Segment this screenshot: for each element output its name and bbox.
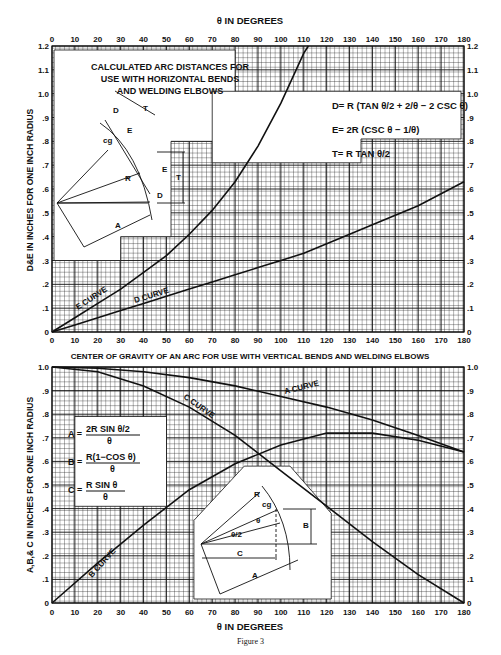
svg-text:R: R <box>125 174 131 183</box>
svg-text:θ/2: θ/2 <box>231 530 243 539</box>
svg-text:2R SIN θ/2: 2R SIN θ/2 <box>86 424 130 434</box>
svg-text:B =: B = <box>68 457 82 467</box>
svg-text:.7: .7 <box>467 161 474 170</box>
svg-text:10: 10 <box>70 35 79 44</box>
svg-text:150: 150 <box>389 35 403 44</box>
svg-text:130: 130 <box>343 35 357 44</box>
svg-text:.2: .2 <box>467 280 474 289</box>
svg-text:θ: θ <box>103 492 108 502</box>
svg-text:120: 120 <box>320 336 334 345</box>
svg-text:.6: .6 <box>42 457 49 466</box>
svg-text:160: 160 <box>412 608 426 617</box>
svg-text:180: 180 <box>457 336 471 345</box>
svg-text:140: 140 <box>366 35 380 44</box>
svg-text:100: 100 <box>274 608 288 617</box>
svg-text:20: 20 <box>93 608 102 617</box>
svg-text:90: 90 <box>254 35 263 44</box>
svg-text:.8: .8 <box>467 410 474 419</box>
svg-text:.9: .9 <box>467 114 474 123</box>
svg-text:110: 110 <box>297 336 310 345</box>
svg-text:170: 170 <box>434 35 448 44</box>
svg-text:50: 50 <box>162 608 171 617</box>
svg-text:10: 10 <box>70 336 79 345</box>
top-plot: 0102030405060708090100110120130140150160… <box>25 35 479 345</box>
svg-text:C: C <box>237 549 243 558</box>
bottom-plot: CENTER OF GRAVITY OF AN ARC FOR USE WITH… <box>25 352 479 617</box>
svg-text:.5: .5 <box>467 481 474 490</box>
svg-text:.3: .3 <box>467 257 474 266</box>
svg-text:θ: θ <box>107 436 112 446</box>
svg-text:50: 50 <box>162 35 171 44</box>
svg-text:30: 30 <box>116 336 125 345</box>
svg-text:0: 0 <box>45 328 50 337</box>
svg-text:.8: .8 <box>42 410 49 419</box>
svg-text:40: 40 <box>139 336 148 345</box>
svg-text:90: 90 <box>254 336 263 345</box>
svg-text:1.0: 1.0 <box>38 363 50 372</box>
svg-text:1.1: 1.1 <box>38 66 50 75</box>
svg-text:A =: A = <box>68 429 82 439</box>
svg-text:D&E IN INCHES FOR ONE INCH RAD: D&E IN INCHES FOR ONE INCH RADIUS <box>25 108 35 271</box>
svg-text:1.0: 1.0 <box>467 363 479 372</box>
svg-text:70: 70 <box>208 35 217 44</box>
svg-text:30: 30 <box>116 35 125 44</box>
figure-caption: Figure 3 <box>0 637 501 646</box>
svg-text:140: 140 <box>366 608 380 617</box>
svg-text:.7: .7 <box>467 434 474 443</box>
svg-text:40: 40 <box>139 608 148 617</box>
svg-text:E= 2R (CSC θ − 1/θ): E= 2R (CSC θ − 1/θ) <box>332 124 419 135</box>
svg-text:.8: .8 <box>467 137 474 146</box>
svg-text:0: 0 <box>45 599 50 608</box>
svg-text:θ: θ <box>256 516 260 525</box>
svg-text:.9: .9 <box>467 387 474 396</box>
svg-text:.4: .4 <box>42 233 49 242</box>
svg-text:AND WELDING ELBOWS: AND WELDING ELBOWS <box>117 86 224 96</box>
svg-text:θ: θ <box>110 464 115 474</box>
svg-text:D: D <box>113 106 119 115</box>
svg-text:.3: .3 <box>467 528 474 537</box>
svg-text:D= R (TAN θ/2 + 2/θ − 2 CSC θ): D= R (TAN θ/2 + 2/θ − 2 CSC θ) <box>332 100 468 111</box>
svg-text:.9: .9 <box>42 114 49 123</box>
svg-text:T: T <box>143 104 148 113</box>
svg-text:80: 80 <box>231 608 240 617</box>
svg-text:.3: .3 <box>42 528 49 537</box>
svg-text:.2: .2 <box>42 552 49 561</box>
svg-text:60: 60 <box>185 35 194 44</box>
svg-text:110: 110 <box>297 35 310 44</box>
svg-text:0: 0 <box>50 35 55 44</box>
svg-text:0: 0 <box>467 599 472 608</box>
svg-text:170: 170 <box>434 608 448 617</box>
svg-text:.3: .3 <box>42 257 49 266</box>
svg-text:C =: C = <box>68 485 82 495</box>
svg-text:E: E <box>127 126 133 135</box>
svg-text:.6: .6 <box>467 185 474 194</box>
svg-text:20: 20 <box>93 35 102 44</box>
svg-text:0: 0 <box>50 336 55 345</box>
svg-text:R SIN θ: R SIN θ <box>86 480 118 490</box>
svg-text:130: 130 <box>343 608 357 617</box>
svg-text:50: 50 <box>162 336 171 345</box>
svg-text:.1: .1 <box>467 304 474 313</box>
svg-text:.4: .4 <box>467 233 474 242</box>
svg-text:60: 60 <box>185 608 194 617</box>
svg-text:.7: .7 <box>42 161 49 170</box>
svg-text:170: 170 <box>434 336 448 345</box>
svg-text:.9: .9 <box>42 387 49 396</box>
svg-text:1.2: 1.2 <box>467 42 479 51</box>
svg-text:CALCULATED ARC DISTANCES FOR: CALCULATED ARC DISTANCES FOR <box>91 62 249 72</box>
svg-text:D: D <box>157 191 163 200</box>
svg-text:cg: cg <box>103 136 112 145</box>
svg-text:70: 70 <box>208 336 217 345</box>
svg-text:R(1−COS θ): R(1−COS θ) <box>86 452 136 462</box>
svg-text:.5: .5 <box>42 481 49 490</box>
svg-text:T= R TAN θ/2: T= R TAN θ/2 <box>332 148 390 159</box>
svg-text:120: 120 <box>320 608 334 617</box>
svg-text:1.0: 1.0 <box>467 90 479 99</box>
svg-text:1.0: 1.0 <box>38 90 50 99</box>
svg-text:.4: .4 <box>467 505 474 514</box>
svg-text:10: 10 <box>70 608 79 617</box>
svg-text:80: 80 <box>231 35 240 44</box>
svg-text:90: 90 <box>254 608 263 617</box>
svg-text:.6: .6 <box>42 185 49 194</box>
svg-text:120: 120 <box>320 35 334 44</box>
